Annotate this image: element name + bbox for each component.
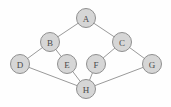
graph-node-circle-b[interactable]	[41, 33, 60, 52]
graph-node-d[interactable]: D	[11, 55, 30, 74]
graph-diagram-canvas: ABCDEFGH	[0, 0, 171, 107]
graph-node-circle-g[interactable]	[143, 55, 162, 74]
graph-node-e[interactable]: E	[58, 55, 77, 74]
graph-node-circle-f[interactable]	[87, 55, 106, 74]
graph-node-circle-h[interactable]	[77, 80, 96, 99]
graph-node-b[interactable]: B	[41, 33, 60, 52]
edge-layer	[20, 18, 152, 89]
graph-node-circle-c[interactable]	[113, 33, 132, 52]
graph-node-f[interactable]: F	[87, 55, 106, 74]
graph-node-circle-e[interactable]	[58, 55, 77, 74]
graph-node-g[interactable]: G	[143, 55, 162, 74]
graph-node-a[interactable]: A	[77, 9, 96, 28]
graph-svg: ABCDEFGH	[0, 0, 171, 107]
graph-node-circle-a[interactable]	[77, 9, 96, 28]
graph-node-circle-d[interactable]	[11, 55, 30, 74]
node-layer: ABCDEFGH	[11, 9, 162, 99]
graph-node-h[interactable]: H	[77, 80, 96, 99]
graph-node-c[interactable]: C	[113, 33, 132, 52]
